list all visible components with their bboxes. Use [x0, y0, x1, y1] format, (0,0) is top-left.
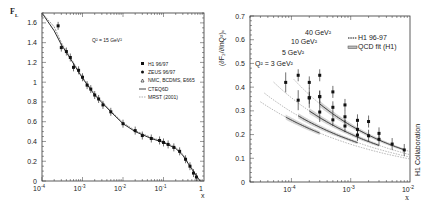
y-tick-label: 0.6: [27, 118, 37, 125]
data-point: [297, 99, 300, 102]
data-point: [356, 128, 359, 131]
left-x-tick-labels: 10-410-310-210-11: [33, 184, 203, 192]
data-point: [97, 97, 100, 100]
y-tick-label: 1.6: [27, 19, 37, 26]
data-point: [331, 90, 334, 93]
data-point: [343, 125, 346, 128]
data-point: [89, 88, 92, 91]
x-tick-label: 10-1: [155, 184, 167, 192]
data-point: [188, 165, 191, 168]
y-tick-label: 1.4: [27, 39, 37, 46]
data-point: [109, 110, 112, 113]
data-point: [57, 24, 60, 27]
x-tick-label: 10-4: [283, 184, 295, 193]
right-curve-labels: Q² = 3 GeV² 5 GeV² 10 GeV² 40 GeV²: [255, 29, 332, 68]
data-point: [134, 129, 137, 132]
data-point: [65, 50, 68, 53]
left-legend: H1 96/97 ZEUS 96/97 NMC, BCDMS, E665 CTE…: [139, 61, 195, 100]
data-point: [72, 66, 75, 69]
legend-cteq-label: CTEQ6D: [148, 86, 169, 92]
y-tick-label: 1: [33, 79, 37, 86]
data-point: [343, 115, 346, 118]
y-tick-label: 0.2: [27, 158, 37, 165]
data-point: [184, 158, 187, 161]
right-qcd-curves: [260, 79, 410, 159]
data-point: [158, 139, 161, 142]
right-chart: 00.10.20.30.40.50.60.7 10-410-310-2 (∂F₂…: [218, 13, 421, 203]
right-x-axis-label: x: [405, 193, 409, 202]
data-point: [81, 76, 84, 79]
data-point: [331, 106, 334, 109]
y-tick-label: 0.4: [235, 84, 245, 91]
data-point: [150, 137, 153, 140]
left-plot-frame: [42, 13, 204, 181]
left-chart-title: Q² = 15 GeV²: [92, 37, 122, 43]
data-point: [331, 118, 334, 121]
left-data-points: [57, 22, 198, 181]
legend-qcd-label: QCD fit (H1): [358, 43, 397, 51]
data-point: [167, 143, 170, 146]
legend-mrst-label: MRST (2001): [148, 94, 178, 100]
data-point: [356, 119, 359, 122]
x-tick-label: 1: [199, 185, 203, 192]
extrapolation-curve: [264, 93, 410, 157]
data-point: [403, 148, 406, 151]
left-chart: 00.20.40.60.811.21.41.6 10-410-310-210-1…: [10, 7, 205, 199]
data-point: [318, 111, 321, 114]
data-point: [343, 103, 346, 106]
label-q2-10: 10 GeV²: [291, 38, 318, 45]
data-point: [101, 103, 104, 106]
data-point: [86, 84, 89, 87]
label-q2-3: Q² = 3 GeV²: [255, 60, 294, 68]
y-tick-label: 0.7: [235, 13, 245, 20]
x-tick-label: 10-3: [74, 184, 86, 192]
legend-h1-label: H1 96/97: [148, 61, 169, 67]
legend-h1-marker: [141, 62, 144, 65]
data-point: [318, 95, 321, 98]
left-y-axis-label: FL: [10, 7, 19, 18]
figure: 00.20.40.60.811.21.41.6 10-410-310-210-1…: [0, 0, 430, 214]
left-y-tick-labels: 00.20.40.60.811.21.41.6: [27, 19, 37, 184]
label-q2-5: 5 GeV²: [282, 49, 305, 56]
data-point: [297, 74, 300, 77]
right-y-axis-label: (∂F₂/∂lnQ²)ₓ: [218, 29, 226, 66]
x-tick-label: 10-2: [402, 184, 414, 193]
legend-zeus-marker: [141, 71, 144, 74]
x-tick-label: 10-2: [114, 184, 126, 192]
data-point: [77, 69, 80, 72]
y-tick-label: 0: [33, 178, 37, 185]
y-tick-label: 0.5: [235, 60, 245, 67]
data-point: [172, 146, 175, 149]
left-x-axis-label: x: [201, 192, 205, 199]
data-point: [195, 176, 198, 179]
left-axis-ticks: [42, 13, 204, 181]
legend-nmc-marker: [141, 79, 144, 82]
data-point: [318, 74, 321, 77]
y-tick-label: 0: [241, 179, 245, 186]
right-x-tick-labels: 10-410-310-2: [283, 184, 414, 193]
data-point: [378, 132, 381, 135]
data-point: [367, 134, 370, 137]
y-tick-label: 0.3: [235, 107, 245, 114]
label-q2-40: 40 GeV²: [305, 29, 332, 36]
legend-h1-label: H1 96-97: [358, 34, 387, 41]
data-point: [308, 81, 311, 84]
right-legend: H1 96-97 QCD fit (H1): [348, 34, 397, 51]
data-point: [93, 94, 96, 97]
legend-zeus-label: ZEUS 96/97: [148, 69, 175, 75]
y-tick-label: 0.1: [235, 155, 245, 162]
legend-nmc-label: NMC, BCDMS, E665: [148, 77, 195, 83]
y-tick-label: 0.2: [235, 131, 245, 138]
data-point: [162, 141, 165, 144]
data-point: [60, 46, 63, 49]
y-tick-label: 0.4: [27, 138, 37, 145]
x-tick-label: 10-3: [343, 184, 355, 193]
y-tick-label: 1.2: [27, 59, 37, 66]
data-point: [122, 122, 125, 125]
right-y-tick-labels: 00.10.20.30.40.50.60.7: [235, 13, 245, 186]
data-point: [391, 143, 394, 146]
x-tick-label: 10-4: [33, 184, 45, 192]
data-point: [308, 96, 311, 99]
data-point: [284, 81, 287, 84]
data-point: [367, 120, 370, 123]
